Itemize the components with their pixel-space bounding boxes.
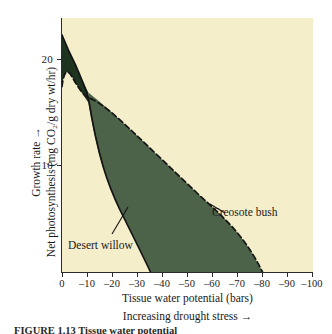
x-axis-tick-m60	[212, 272, 213, 277]
y-axis-line	[61, 18, 62, 273]
x-axis-tick-m100	[312, 272, 313, 277]
series-label-desert-willow: Desert willow	[68, 239, 133, 251]
figure-caption: FIGURE 1.13 Tissue water potential	[14, 325, 332, 334]
y-axis-title-net-photosynthesis: Net photosynthesis (mg CO₂/g dry wt/hr)	[44, 28, 59, 296]
x-axis-tick-m10	[87, 272, 88, 277]
figure-container: 20 10 0 –10 –20 –30 –40 –50 –60 –70 –80 …	[0, 0, 332, 334]
x-axis-tick-m30	[137, 272, 138, 277]
x-axis-tick-m80	[262, 272, 263, 277]
x-axis-tick-m20	[112, 272, 113, 277]
plot-area	[62, 18, 313, 272]
x-axis-tick-m90	[287, 272, 288, 277]
x-axis-tick-m50	[187, 272, 188, 277]
x-axis-tick-m70	[237, 272, 238, 277]
series-label-creosote-bush: Creosote bush	[212, 206, 277, 218]
y-axis-title-group: Growth rate → Net photosynthesis (mg CO₂…	[14, 18, 54, 272]
x-axis-subtitle-drought-stress: Increasing drought stress →	[62, 310, 313, 322]
x-axis-tick-m40	[162, 272, 163, 277]
y-axis-title-growth-rate: Growth rate →	[29, 28, 44, 296]
x-axis-tick-0	[62, 272, 63, 277]
x-axis-tick-label-m100: –100	[295, 278, 329, 289]
chart-svg	[62, 18, 313, 272]
x-axis-title: Tissue water potential (bars)	[62, 292, 313, 304]
